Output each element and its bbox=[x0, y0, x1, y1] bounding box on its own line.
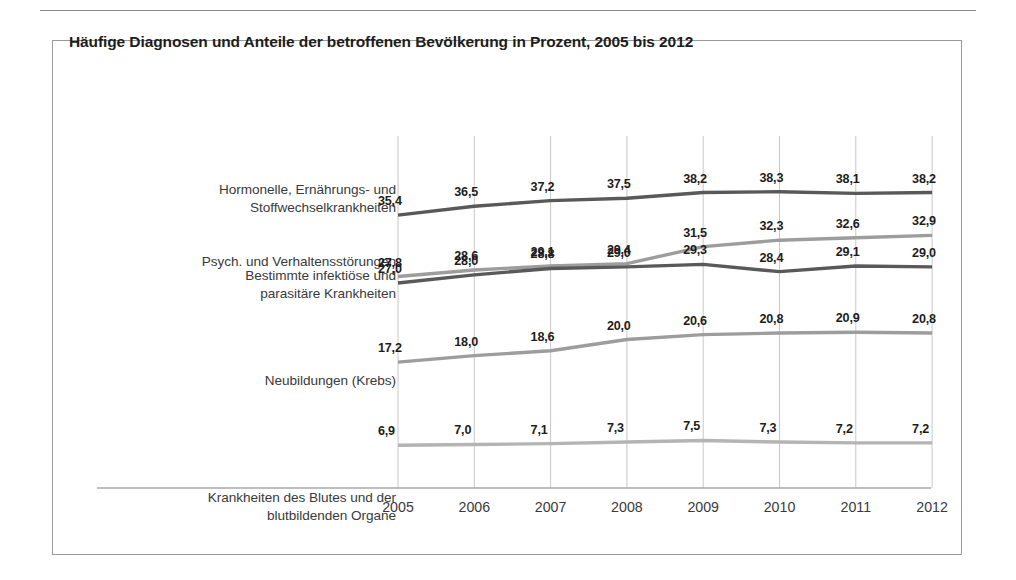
value-label: 32,9 bbox=[912, 214, 936, 228]
value-label: 38,2 bbox=[912, 172, 936, 186]
value-label: 7,5 bbox=[683, 419, 700, 433]
year-label-2006: 2006 bbox=[434, 499, 514, 515]
value-label: 37,2 bbox=[531, 180, 555, 194]
value-label: 7,2 bbox=[836, 422, 853, 436]
top-divider bbox=[40, 10, 976, 11]
year-label-2010: 2010 bbox=[740, 499, 820, 515]
value-label: 7,2 bbox=[912, 422, 929, 436]
value-label: 20,8 bbox=[912, 312, 936, 326]
value-label: 7,1 bbox=[531, 423, 548, 437]
value-label: 38,3 bbox=[760, 171, 784, 185]
value-label: 29,0 bbox=[607, 246, 631, 260]
year-label-2005: 2005 bbox=[358, 499, 438, 515]
series-line-3 bbox=[398, 332, 932, 362]
value-label: 6,9 bbox=[378, 424, 395, 438]
series-line-0 bbox=[398, 192, 932, 215]
value-label: 18,6 bbox=[531, 330, 555, 344]
value-label: 28,0 bbox=[454, 254, 478, 268]
value-label: 29,3 bbox=[683, 243, 707, 257]
value-label: 38,1 bbox=[836, 172, 860, 186]
value-label: 31,5 bbox=[683, 226, 707, 240]
value-label: 20,0 bbox=[607, 319, 631, 333]
value-label: 7,3 bbox=[607, 421, 624, 435]
year-label-2009: 2009 bbox=[663, 499, 743, 515]
chart-page: Hormonelle, Ernährungs- und Stoffwechsel… bbox=[0, 0, 1016, 580]
year-label-2007: 2007 bbox=[511, 499, 591, 515]
value-label: 35,4 bbox=[378, 194, 402, 208]
value-label: 7,3 bbox=[760, 421, 777, 435]
value-label: 38,2 bbox=[683, 172, 707, 186]
value-label: 18,0 bbox=[454, 335, 478, 349]
chart-frame: Hormonelle, Ernährungs- und Stoffwechsel… bbox=[52, 40, 962, 555]
value-label: 32,6 bbox=[836, 217, 860, 231]
value-label: 29,0 bbox=[912, 246, 936, 260]
year-label-2011: 2011 bbox=[816, 499, 896, 515]
value-label: 7,0 bbox=[454, 423, 471, 437]
value-label: 32,3 bbox=[760, 219, 784, 233]
plot-area: Hormonelle, Ernährungs- und Stoffwechsel… bbox=[53, 41, 963, 556]
value-label: 36,5 bbox=[454, 185, 478, 199]
year-label-2012: 2012 bbox=[892, 499, 972, 515]
value-label: 17,2 bbox=[378, 341, 402, 355]
series-label-4: Krankheiten des Blutes und der blutbilde… bbox=[66, 489, 396, 525]
series-label-0: Hormonelle, Ernährungs- und Stoffwechsel… bbox=[66, 181, 396, 217]
value-label: 29,1 bbox=[836, 245, 860, 259]
value-label: 28,8 bbox=[531, 247, 555, 261]
value-label: 37,5 bbox=[607, 177, 631, 191]
series-label-2: Bestimmte infektiöse und parasitäre Kran… bbox=[66, 267, 396, 303]
value-label: 27,0 bbox=[378, 262, 402, 276]
page-title: Häufige Diagnosen und Anteile der betrof… bbox=[69, 33, 693, 51]
value-label: 20,6 bbox=[683, 314, 707, 328]
year-label-2008: 2008 bbox=[587, 499, 667, 515]
value-label: 20,8 bbox=[760, 312, 784, 326]
series-label-3: Neubildungen (Krebs) bbox=[66, 372, 396, 390]
series-line-2 bbox=[398, 264, 932, 283]
value-label: 20,9 bbox=[836, 311, 860, 325]
series-line-4 bbox=[398, 440, 932, 445]
value-label: 28,4 bbox=[760, 251, 784, 265]
